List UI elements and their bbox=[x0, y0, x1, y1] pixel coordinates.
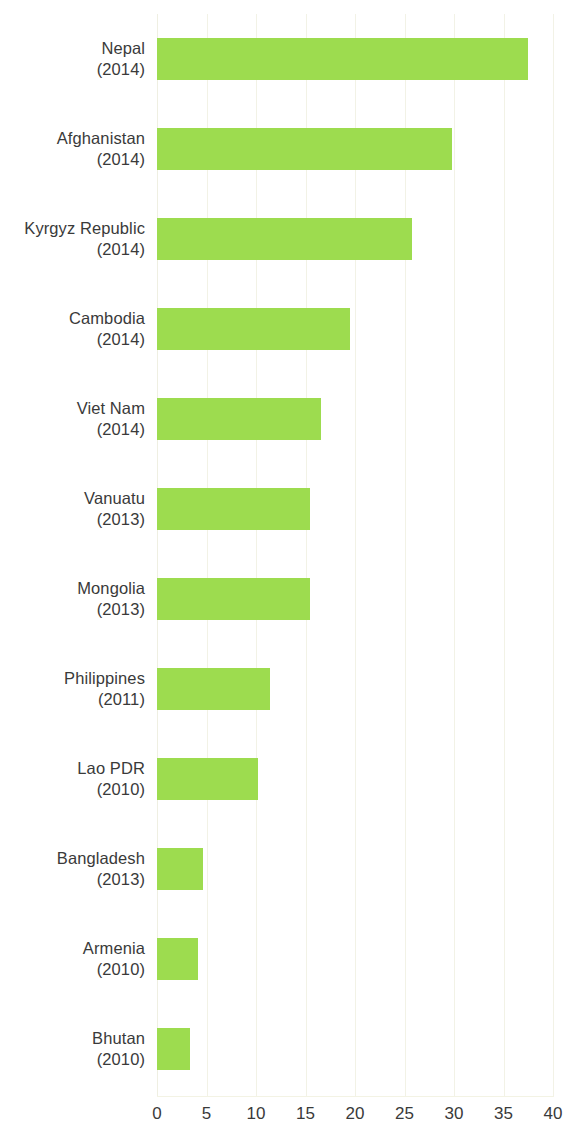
x-tick-label: 5 bbox=[202, 1103, 211, 1125]
category-label: Kyrgyz Republic(2014) bbox=[0, 218, 145, 260]
category-name: Vanuatu bbox=[0, 488, 145, 509]
category-name: Mongolia bbox=[0, 578, 145, 599]
category-label: Bhutan(2010) bbox=[0, 1028, 145, 1070]
x-tick-label: 0 bbox=[152, 1103, 161, 1125]
gridline-0 bbox=[157, 14, 158, 1097]
gridline-20 bbox=[355, 14, 356, 1097]
bar bbox=[157, 758, 258, 800]
bar bbox=[157, 848, 203, 890]
category-label: Lao PDR(2010) bbox=[0, 758, 145, 800]
x-axis-tick-labels: 0510152025303540 bbox=[0, 1103, 570, 1143]
x-tick-label: 35 bbox=[494, 1103, 513, 1125]
bar bbox=[157, 128, 452, 170]
category-year: (2014) bbox=[0, 149, 145, 170]
category-year: (2013) bbox=[0, 509, 145, 530]
category-label: Vanuatu(2013) bbox=[0, 488, 145, 530]
bar bbox=[157, 578, 310, 620]
category-label: Nepal(2014) bbox=[0, 38, 145, 80]
x-tick-label: 10 bbox=[247, 1103, 266, 1125]
y-axis-category-labels: Nepal(2014)Afghanistan(2014)Kyrgyz Repub… bbox=[0, 0, 145, 1143]
category-label: Bangladesh(2013) bbox=[0, 848, 145, 890]
gridline-30 bbox=[454, 14, 455, 1097]
category-name: Bangladesh bbox=[0, 848, 145, 869]
x-tick-label: 15 bbox=[296, 1103, 315, 1125]
bar bbox=[157, 38, 528, 80]
category-name: Philippines bbox=[0, 668, 145, 689]
category-name: Kyrgyz Republic bbox=[0, 218, 145, 239]
x-tick-label: 40 bbox=[544, 1103, 563, 1125]
category-label: Afghanistan(2014) bbox=[0, 128, 145, 170]
gridline-10 bbox=[256, 14, 257, 1097]
x-tick-label: 25 bbox=[395, 1103, 414, 1125]
category-name: Lao PDR bbox=[0, 758, 145, 779]
bar-chart: Nepal(2014)Afghanistan(2014)Kyrgyz Repub… bbox=[0, 0, 570, 1143]
x-axis-baseline bbox=[157, 1096, 554, 1097]
x-tick-label: 30 bbox=[445, 1103, 464, 1125]
category-name: Armenia bbox=[0, 938, 145, 959]
category-year: (2014) bbox=[0, 239, 145, 260]
category-year: (2010) bbox=[0, 1049, 145, 1070]
category-year: (2013) bbox=[0, 599, 145, 620]
category-name: Afghanistan bbox=[0, 128, 145, 149]
category-label: Philippines(2011) bbox=[0, 668, 145, 710]
bar bbox=[157, 938, 198, 980]
gridline-35 bbox=[504, 14, 505, 1097]
bar bbox=[157, 488, 310, 530]
category-name: Bhutan bbox=[0, 1028, 145, 1049]
bar bbox=[157, 668, 270, 710]
category-label: Cambodia(2014) bbox=[0, 308, 145, 350]
gridline-25 bbox=[405, 14, 406, 1097]
category-name: Viet Nam bbox=[0, 398, 145, 419]
category-year: (2014) bbox=[0, 59, 145, 80]
bar bbox=[157, 308, 350, 350]
category-label: Viet Nam(2014) bbox=[0, 398, 145, 440]
category-year: (2011) bbox=[0, 689, 145, 710]
category-label: Armenia(2010) bbox=[0, 938, 145, 980]
bar bbox=[157, 398, 321, 440]
category-year: (2013) bbox=[0, 869, 145, 890]
category-year: (2014) bbox=[0, 419, 145, 440]
bar bbox=[157, 1028, 190, 1070]
category-year: (2010) bbox=[0, 779, 145, 800]
x-tick-label: 20 bbox=[346, 1103, 365, 1125]
category-name: Cambodia bbox=[0, 308, 145, 329]
gridline-5 bbox=[207, 14, 208, 1097]
category-year: (2014) bbox=[0, 329, 145, 350]
category-year: (2010) bbox=[0, 959, 145, 980]
gridline-40 bbox=[553, 14, 554, 1097]
plot-area bbox=[157, 14, 553, 1097]
category-label: Mongolia(2013) bbox=[0, 578, 145, 620]
gridline-15 bbox=[306, 14, 307, 1097]
bar bbox=[157, 218, 412, 260]
category-name: Nepal bbox=[0, 38, 145, 59]
